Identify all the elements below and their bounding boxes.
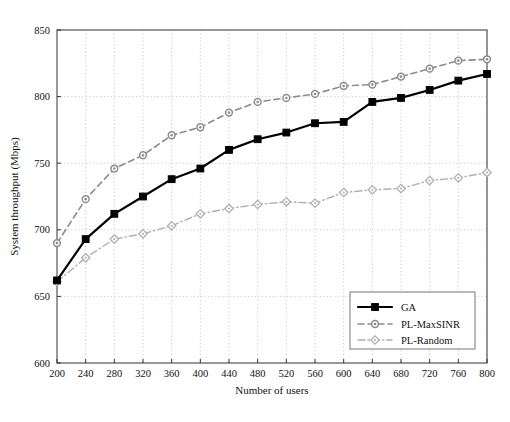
legend-label-pl-maxsinr: PL-MaxSINR xyxy=(401,319,460,330)
data-point-marker-core xyxy=(400,187,402,189)
data-point-marker xyxy=(340,119,347,126)
data-point-marker-core xyxy=(486,171,488,173)
y-axis-title: System throughput (Mbps) xyxy=(8,137,21,256)
x-tick-label: 640 xyxy=(364,368,380,379)
data-point-marker-core xyxy=(85,257,87,259)
data-point-marker xyxy=(54,277,61,284)
data-point-marker-core xyxy=(428,67,431,70)
data-point-marker-core xyxy=(113,167,116,170)
data-point-marker xyxy=(426,87,433,94)
data-point-marker xyxy=(111,210,118,217)
x-tick-label: 480 xyxy=(250,368,266,379)
data-point-marker xyxy=(168,176,175,183)
x-tick-label: 400 xyxy=(192,368,208,379)
data-point-marker xyxy=(312,120,319,127)
x-tick-label: 600 xyxy=(336,368,352,379)
data-point-marker-core xyxy=(199,213,201,215)
legend-label-ga: GA xyxy=(401,302,417,313)
y-tick-label: 750 xyxy=(34,158,50,169)
data-point-marker-core xyxy=(228,111,231,114)
data-point-marker-core xyxy=(199,126,202,129)
caption-rule xyxy=(0,410,510,422)
legend-label-pl-random: PL-Random xyxy=(401,335,452,346)
figure-container: 2002402803203604004404805205606006406807… xyxy=(0,0,510,422)
data-point-marker xyxy=(283,129,290,136)
data-point-marker-core xyxy=(374,339,376,341)
data-point-marker-core xyxy=(371,83,374,86)
data-point-marker xyxy=(484,71,491,78)
data-point-marker-core xyxy=(56,242,59,245)
data-point-marker-core xyxy=(457,59,460,62)
data-point-marker-core xyxy=(113,238,115,240)
data-point-marker-core xyxy=(400,75,403,78)
data-point-marker-core xyxy=(342,85,345,88)
data-point-marker-core xyxy=(142,154,145,157)
x-tick-label: 800 xyxy=(479,368,495,379)
data-point-marker-core xyxy=(314,202,316,204)
data-point-marker xyxy=(140,193,147,200)
data-point-marker xyxy=(254,136,261,143)
data-point-marker xyxy=(82,236,89,243)
x-tick-label: 200 xyxy=(49,368,65,379)
data-point-marker-core xyxy=(171,225,173,227)
data-point-marker-core xyxy=(228,207,230,209)
data-point-marker-core xyxy=(429,179,431,181)
y-tick-label: 700 xyxy=(34,224,50,235)
data-point-marker-core xyxy=(285,201,287,203)
x-tick-label: 720 xyxy=(422,368,438,379)
data-point-marker-core xyxy=(142,233,144,235)
x-tick-label: 760 xyxy=(450,368,466,379)
data-point-marker-core xyxy=(371,189,373,191)
x-axis-title: Number of users xyxy=(235,384,308,396)
data-point-marker xyxy=(369,99,376,106)
data-point-marker xyxy=(398,95,405,102)
y-tick-label: 600 xyxy=(34,358,50,369)
x-tick-label: 440 xyxy=(221,368,237,379)
data-point-marker xyxy=(455,77,462,84)
data-point-marker-core xyxy=(257,203,259,205)
data-point-marker-core xyxy=(170,134,173,137)
data-point-marker-core xyxy=(314,93,317,96)
data-point-marker-core xyxy=(84,198,87,201)
throughput-line-chart: 2002402803203604004404805205606006406807… xyxy=(0,0,510,422)
x-tick-label: 360 xyxy=(164,368,180,379)
data-point-marker-core xyxy=(285,97,288,100)
data-point-marker-core xyxy=(256,101,259,104)
data-point-marker xyxy=(197,165,204,172)
data-point-marker-core xyxy=(486,58,489,61)
data-point-marker xyxy=(372,304,379,311)
x-tick-label: 680 xyxy=(393,368,409,379)
data-point-marker-core xyxy=(343,191,345,193)
x-tick-label: 560 xyxy=(307,368,323,379)
y-tick-label: 650 xyxy=(34,291,50,302)
y-tick-label: 800 xyxy=(34,91,50,102)
data-point-marker-core xyxy=(457,177,459,179)
data-point-marker-core xyxy=(374,323,377,326)
x-tick-label: 520 xyxy=(278,368,294,379)
x-tick-label: 240 xyxy=(78,368,94,379)
x-tick-label: 280 xyxy=(106,368,122,379)
data-point-marker xyxy=(226,146,233,153)
x-tick-label: 320 xyxy=(135,368,151,379)
y-tick-label: 850 xyxy=(34,25,50,36)
